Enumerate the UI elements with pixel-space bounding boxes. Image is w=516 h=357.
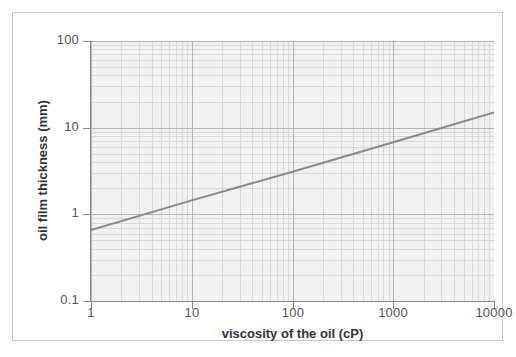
y-tick-mark — [83, 214, 90, 215]
log-log-grid-and-series — [91, 41, 494, 301]
x-tick-label: 1 — [51, 305, 131, 320]
figure-frame: 1001010.1 110100100010000 viscosity of t… — [12, 12, 503, 341]
y-tick-label: 10 — [21, 119, 79, 134]
x-tick-label: 100 — [253, 305, 333, 320]
x-tick-label: 10000 — [454, 305, 516, 320]
series-line-0 — [91, 112, 494, 230]
y-axis-spine — [90, 41, 91, 302]
plot-area — [91, 41, 494, 301]
x-tick-label: 1000 — [353, 305, 433, 320]
y-tick-label: 100 — [21, 32, 79, 47]
x-axis-title: viscosity of the oil (cP) — [91, 326, 494, 341]
chart-figure: 1001010.1 110100100010000 viscosity of t… — [0, 0, 516, 357]
y-tick-mark — [83, 128, 90, 129]
x-tick-label: 10 — [152, 305, 232, 320]
y-tick-mark — [83, 301, 90, 302]
y-axis-title: oil film thickness (mm) — [35, 56, 50, 286]
y-tick-label: 1 — [21, 205, 79, 220]
y-tick-mark — [83, 41, 90, 42]
